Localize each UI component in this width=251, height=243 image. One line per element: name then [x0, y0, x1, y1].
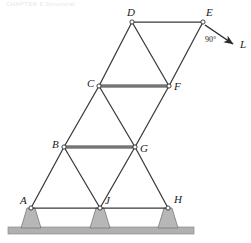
joint-label-h: H	[173, 193, 183, 205]
member-CD	[99, 22, 132, 86]
truss-diagram-canvas: AJHBGCFDE L 90°	[0, 0, 251, 243]
member-group	[31, 22, 203, 208]
support-group	[21, 208, 178, 228]
joint-label-c: C	[87, 77, 95, 89]
pin-support-j	[90, 208, 110, 228]
right-angle-label: 90°	[205, 35, 216, 44]
member-AB	[31, 147, 64, 208]
pin-support-h	[158, 208, 178, 228]
joint-d	[130, 20, 134, 24]
joint-label-a: A	[19, 194, 27, 206]
member-BJ	[64, 147, 100, 208]
joint-h	[166, 206, 170, 210]
joint-b	[62, 145, 66, 149]
joint-f	[167, 84, 171, 88]
member-CG	[99, 86, 135, 147]
joint-label-f: F	[173, 80, 181, 92]
joint-label-g: G	[140, 142, 148, 154]
joint-label-b: B	[52, 138, 59, 150]
member-GF	[135, 86, 169, 147]
joint-g	[133, 145, 137, 149]
joint-label-j: J	[105, 194, 111, 206]
applied-load-group: L 90°	[205, 25, 246, 50]
joint-group	[29, 20, 205, 210]
member-DF	[132, 22, 169, 86]
load-label: L	[239, 38, 246, 50]
joint-a	[29, 206, 33, 210]
member-GH	[135, 147, 168, 208]
pin-support-a	[21, 208, 41, 228]
joint-j	[98, 206, 102, 210]
joint-c	[97, 84, 101, 88]
member-FE	[169, 22, 203, 86]
joint-label-d: D	[126, 6, 135, 18]
truss-figure: CHAPTER 6 Structural AJHBGCFDE L 90°	[0, 0, 251, 243]
joint-label-e: E	[205, 6, 213, 18]
member-BC	[64, 86, 99, 147]
joint-e	[201, 20, 205, 24]
